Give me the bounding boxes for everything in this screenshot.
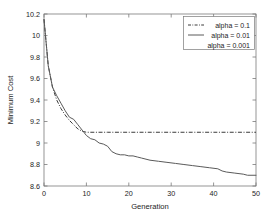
y-tick-label: 9.8: [30, 53, 40, 62]
legend-label-alpha-0-001: alpha = 0.001: [207, 42, 250, 50]
x-axis-title: Generation: [131, 202, 169, 211]
y-tick-label: 9.2: [30, 117, 40, 126]
y-tick-label: 9.6: [30, 74, 40, 83]
x-tick-label: 0: [42, 189, 46, 198]
chart-svg: 01020304050 8.68.899.29.49.69.81010.2 Ge…: [0, 0, 278, 220]
y-tick-label: 8.8: [30, 160, 40, 169]
legend-label-alpha-0-1: alpha = 0.1: [215, 22, 250, 30]
x-tick-label: 10: [82, 189, 90, 198]
y-tick-label: 10: [32, 31, 40, 40]
y-tick-label: 10.2: [26, 10, 40, 19]
x-tick-label: 20: [125, 189, 133, 198]
x-tick-label: 50: [252, 189, 260, 198]
x-tick-label: 30: [167, 189, 175, 198]
y-tick-label: 9.4: [30, 96, 40, 105]
y-tick-label: 8.6: [30, 182, 40, 191]
figure-canvas: 01020304050 8.68.899.29.49.69.81010.2 Ge…: [0, 0, 278, 220]
y-tick-label: 9: [36, 139, 40, 148]
y-axis-title: Minimum Cost: [6, 75, 15, 124]
legend-label-alpha-0-01: alpha = 0.01: [211, 32, 250, 40]
x-tick-label: 40: [210, 189, 218, 198]
chart-legend: alpha = 0.1 alpha = 0.01 alpha = 0.001: [184, 17, 255, 50]
